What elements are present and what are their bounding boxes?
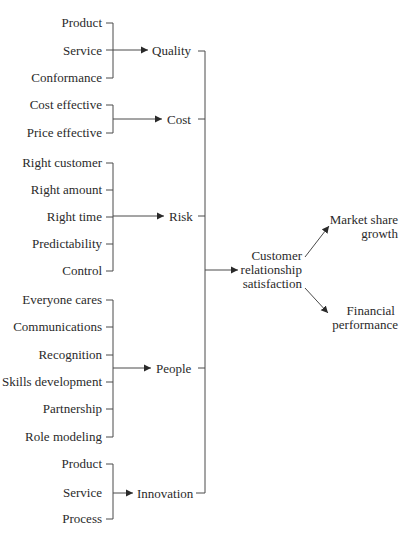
arrow-to-market-share bbox=[305, 226, 329, 257]
item-innovation-service: Service bbox=[63, 485, 102, 500]
item-recognition: Recognition bbox=[38, 347, 102, 362]
bracket-innovation bbox=[106, 464, 113, 519]
outcome-financial-line-2: performance bbox=[332, 317, 398, 332]
arrow-to-financial bbox=[305, 288, 328, 313]
group-quality: Product Service Conformance Quality bbox=[31, 15, 205, 85]
item-innovation-product: Product bbox=[62, 456, 103, 471]
item-communications: Communications bbox=[13, 319, 102, 334]
category-risk: Risk bbox=[169, 209, 193, 224]
item-price-effective: Price effective bbox=[27, 125, 102, 140]
central-line-2: relationship bbox=[241, 262, 302, 277]
item-right-time: Right time bbox=[47, 209, 102, 224]
item-quality-service: Service bbox=[63, 43, 102, 58]
item-right-amount: Right amount bbox=[31, 182, 103, 197]
central-line-1: Customer bbox=[251, 248, 302, 263]
outcome-market-share-line-2: growth bbox=[361, 226, 398, 241]
item-quality-conformance: Conformance bbox=[31, 70, 102, 85]
category-innovation: Innovation bbox=[137, 486, 194, 501]
bracket-risk bbox=[106, 163, 113, 271]
bracket-quality bbox=[106, 23, 113, 78]
item-control: Control bbox=[62, 263, 102, 278]
category-cost: Cost bbox=[167, 112, 191, 127]
group-people: Everyone cares Communications Recognitio… bbox=[2, 292, 205, 444]
group-cost: Cost effective Price effective Cost bbox=[27, 97, 205, 140]
bracket-cost bbox=[106, 105, 113, 133]
item-innovation-process: Process bbox=[62, 511, 102, 526]
item-predictability: Predictability bbox=[32, 236, 103, 251]
central-line-3: satisfaction bbox=[243, 276, 303, 291]
item-skills-development: Skills development bbox=[2, 374, 102, 389]
category-people: People bbox=[156, 361, 192, 376]
outcome-market-share-line-1: Market share bbox=[330, 212, 398, 227]
central-node: Customer relationship satisfaction bbox=[241, 248, 303, 291]
outcome-financial: Financial performance bbox=[332, 303, 398, 332]
group-innovation: Product Service Process Innovation bbox=[62, 456, 205, 526]
item-cost-effective: Cost effective bbox=[30, 97, 103, 112]
item-everyone-cares: Everyone cares bbox=[22, 292, 102, 307]
outcome-financial-line-1: Financial bbox=[347, 303, 396, 318]
item-right-customer: Right customer bbox=[22, 155, 102, 170]
outcome-market-share: Market share growth bbox=[330, 212, 399, 241]
bracket-people bbox=[106, 300, 113, 437]
item-quality-product: Product bbox=[62, 15, 103, 30]
item-partnership: Partnership bbox=[43, 401, 102, 416]
category-quality: Quality bbox=[152, 43, 191, 58]
group-risk: Right customer Right amount Right time P… bbox=[22, 155, 205, 278]
item-role-modeling: Role modeling bbox=[25, 429, 102, 444]
customer-satisfaction-diagram: Product Service Conformance Quality Cost… bbox=[0, 0, 410, 535]
